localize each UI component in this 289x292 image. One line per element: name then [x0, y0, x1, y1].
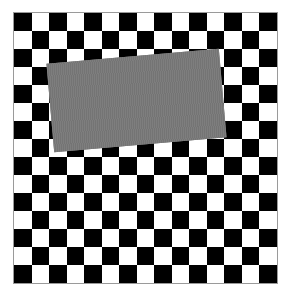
- board-square: [102, 175, 120, 193]
- board-square: [137, 157, 155, 175]
- board-square: [189, 157, 207, 175]
- board-square: [259, 139, 277, 157]
- board-square: [242, 175, 260, 193]
- board-square: [207, 175, 225, 193]
- board-square: [67, 13, 85, 31]
- board-square: [14, 103, 32, 121]
- board-square: [172, 229, 190, 247]
- board-square: [67, 265, 85, 283]
- board-square: [119, 31, 137, 49]
- board-square: [14, 157, 32, 175]
- board-square: [207, 193, 225, 211]
- board-square: [32, 85, 50, 103]
- board-square: [259, 49, 277, 67]
- board-square: [32, 121, 50, 139]
- board-square: [224, 265, 242, 283]
- board-square: [224, 247, 242, 265]
- board-square: [84, 211, 102, 229]
- board-square: [32, 247, 50, 265]
- board-square: [137, 247, 155, 265]
- board-square: [172, 193, 190, 211]
- board-square: [224, 157, 242, 175]
- board-square: [172, 247, 190, 265]
- board-square: [49, 175, 67, 193]
- board-square: [259, 211, 277, 229]
- board-square: [154, 13, 172, 31]
- board-square: [224, 13, 242, 31]
- board-square: [84, 265, 102, 283]
- board-square: [137, 13, 155, 31]
- board-square: [119, 211, 137, 229]
- board-square: [172, 31, 190, 49]
- board-square: [224, 49, 242, 67]
- board-square: [154, 175, 172, 193]
- board-square: [49, 193, 67, 211]
- board-square: [14, 49, 32, 67]
- board-square: [224, 211, 242, 229]
- board-square: [172, 157, 190, 175]
- board-square: [207, 139, 225, 157]
- board-square: [242, 193, 260, 211]
- board-square: [207, 157, 225, 175]
- board-square: [119, 193, 137, 211]
- board-square: [207, 211, 225, 229]
- board-square: [207, 265, 225, 283]
- board-square: [224, 193, 242, 211]
- board-square: [154, 31, 172, 49]
- board-square: [259, 157, 277, 175]
- board-square: [102, 229, 120, 247]
- board-square: [49, 265, 67, 283]
- board-square: [84, 157, 102, 175]
- board-square: [14, 175, 32, 193]
- board-square: [14, 211, 32, 229]
- board-square: [119, 265, 137, 283]
- board-square: [102, 211, 120, 229]
- board-square: [154, 193, 172, 211]
- board-square: [224, 121, 242, 139]
- board-square: [84, 247, 102, 265]
- board-square: [137, 193, 155, 211]
- board-square: [14, 85, 32, 103]
- board-square: [84, 175, 102, 193]
- board-square: [189, 247, 207, 265]
- board-square: [242, 67, 260, 85]
- board-square: [49, 211, 67, 229]
- board-square: [259, 31, 277, 49]
- board-square: [242, 247, 260, 265]
- board-square: [242, 157, 260, 175]
- board-square: [102, 247, 120, 265]
- board-square: [102, 31, 120, 49]
- board-square: [67, 193, 85, 211]
- board-square: [259, 85, 277, 103]
- board-square: [119, 175, 137, 193]
- board-square: [242, 13, 260, 31]
- board-square: [224, 85, 242, 103]
- board-square: [14, 193, 32, 211]
- board-square: [242, 121, 260, 139]
- board-square: [137, 229, 155, 247]
- board-square: [207, 13, 225, 31]
- board-square: [102, 13, 120, 31]
- board-square: [189, 211, 207, 229]
- board-square: [137, 211, 155, 229]
- board-square: [242, 229, 260, 247]
- board-square: [84, 229, 102, 247]
- board-square: [32, 175, 50, 193]
- board-square: [119, 157, 137, 175]
- board-square: [172, 13, 190, 31]
- board-square: [14, 121, 32, 139]
- board-square: [67, 211, 85, 229]
- board-square: [67, 229, 85, 247]
- board-square: [137, 265, 155, 283]
- board-square: [154, 211, 172, 229]
- board-square: [242, 211, 260, 229]
- board-square: [14, 247, 32, 265]
- board-square: [102, 265, 120, 283]
- board-square: [84, 31, 102, 49]
- board-square: [259, 229, 277, 247]
- board-square: [32, 103, 50, 121]
- board-square: [119, 247, 137, 265]
- board-square: [189, 175, 207, 193]
- board-square: [172, 175, 190, 193]
- board-square: [259, 175, 277, 193]
